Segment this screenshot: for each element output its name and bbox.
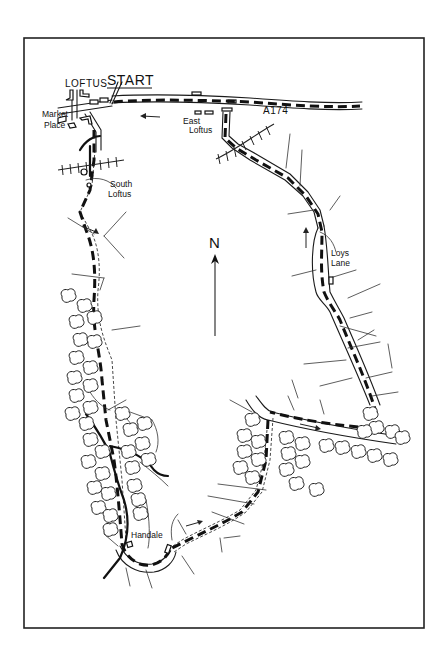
pond-south-loftus [81,169,87,175]
building-south-loftus [87,183,91,187]
north-label: N [209,234,220,251]
label-loys-lane-2: Lane [331,258,350,268]
label-handale: Handale [131,530,163,540]
label-south-loftus-2: Loftus [108,189,131,199]
label-south-loftus-1: South [110,179,132,189]
building-loys-lane [329,277,333,284]
label-loftus: LOFTUS [65,78,107,89]
label-east-loftus-2: Loftus [189,125,212,135]
route-map: N LOFTUS START Market Place East Loftus … [0,0,447,660]
label-loys-lane-1: Loys [331,248,349,258]
label-market-place-2: Place [44,120,66,130]
building-handale [127,541,133,547]
label-market-place-1: Market [42,109,69,119]
label-a174: A174 [263,105,288,116]
label-start: START [107,72,154,88]
